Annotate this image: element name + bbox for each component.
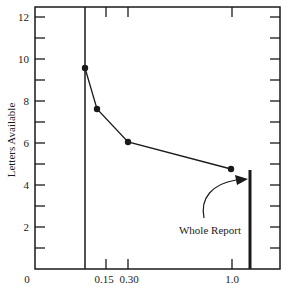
- plot-frame: [35, 7, 280, 269]
- y-tick-labels: 12 10 8 6 4 2 0: [18, 11, 30, 285]
- annotation-arrow: [203, 180, 236, 218]
- arrow-head-icon: [235, 175, 248, 185]
- x-tick-labels: 0.15 0.30 1.0: [94, 273, 239, 285]
- x-axis-ticks: [106, 259, 232, 269]
- data-points: [82, 65, 234, 172]
- x-tick-label: 0.15: [94, 273, 114, 285]
- y-tick-label: 8: [24, 95, 30, 107]
- data-point: [82, 65, 88, 71]
- whole-report-label: Whole Report: [179, 224, 241, 236]
- x-axis-ticks-top: [106, 7, 232, 17]
- y-axis-ticks: [35, 17, 45, 248]
- partial-report-line: [85, 68, 231, 169]
- y-origin-label: 0: [24, 273, 30, 285]
- data-point: [228, 166, 234, 172]
- y-tick-label: 2: [24, 221, 30, 233]
- y-axis-title: Letters Available: [5, 103, 17, 178]
- y-tick-label: 12: [18, 11, 29, 23]
- data-point: [94, 106, 100, 112]
- data-point: [125, 139, 131, 145]
- y-tick-label: 4: [24, 179, 30, 191]
- x-tick-label: 1.0: [225, 273, 239, 285]
- chart: 12 10 8 6 4 2 0 Letters Available 0.15 0…: [0, 0, 289, 298]
- y-tick-label: 10: [18, 53, 30, 65]
- x-tick-label: 0.30: [119, 273, 139, 285]
- y-axis-ticks-right: [270, 17, 280, 248]
- y-tick-label: 6: [24, 137, 30, 149]
